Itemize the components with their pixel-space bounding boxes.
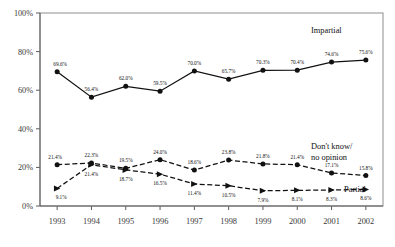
svg-text:18.6%: 18.6%: [188, 159, 202, 165]
svg-text:15.8%: 15.8%: [359, 165, 373, 171]
series-label-dontknow-line1: Don't know/: [311, 142, 353, 151]
series-label-impartial: Impartial: [311, 26, 342, 35]
svg-text:18.7%: 18.7%: [119, 176, 133, 182]
svg-text:70.0%: 70.0%: [188, 60, 202, 66]
svg-text:100%: 100%: [14, 9, 33, 18]
svg-text:11.4%: 11.4%: [188, 190, 202, 196]
svg-text:70.4%: 70.4%: [290, 59, 304, 65]
svg-text:2001: 2001: [323, 217, 340, 226]
svg-text:40%: 40%: [18, 125, 33, 134]
line-chart: 0%20%40%60%80%100% 199319941995199619971…: [0, 0, 395, 247]
svg-text:9.1%: 9.1%: [56, 194, 68, 200]
svg-text:70.3%: 70.3%: [256, 59, 270, 65]
svg-text:16.5%: 16.5%: [153, 180, 167, 186]
series-label-dontknow-line2: no opinion: [311, 153, 348, 162]
svg-text:10.5%: 10.5%: [222, 192, 236, 198]
series-label-partial: Partial: [344, 185, 367, 194]
svg-text:2002: 2002: [357, 217, 374, 226]
svg-text:0%: 0%: [22, 202, 33, 211]
svg-text:60%: 60%: [18, 86, 33, 95]
svg-text:1993: 1993: [49, 217, 66, 226]
svg-text:8.3%: 8.3%: [326, 196, 338, 202]
svg-text:8.1%: 8.1%: [292, 196, 304, 202]
svg-text:1998: 1998: [220, 217, 237, 226]
svg-text:21.4%: 21.4%: [290, 154, 304, 160]
svg-text:17.1%: 17.1%: [325, 162, 339, 168]
svg-text:1994: 1994: [83, 217, 101, 226]
svg-text:1995: 1995: [117, 217, 134, 226]
svg-text:59.5%: 59.5%: [153, 80, 167, 86]
svg-text:21.4%: 21.4%: [48, 154, 62, 160]
svg-text:20%: 20%: [18, 163, 33, 172]
svg-text:24.0%: 24.0%: [153, 149, 167, 155]
svg-text:80%: 80%: [18, 48, 33, 57]
svg-text:8.6%: 8.6%: [360, 195, 372, 201]
svg-text:65.7%: 65.7%: [222, 68, 236, 74]
svg-text:56.4%: 56.4%: [85, 86, 99, 92]
chart-container: 0%20%40%60%80%100% 199319941995199619971…: [0, 0, 395, 247]
svg-text:19.5%: 19.5%: [119, 157, 133, 163]
svg-text:21.4%: 21.4%: [85, 171, 99, 177]
svg-text:7.9%: 7.9%: [257, 197, 269, 203]
svg-text:62.0%: 62.0%: [119, 75, 133, 81]
svg-text:75.6%: 75.6%: [359, 49, 373, 55]
svg-text:21.8%: 21.8%: [256, 153, 270, 159]
svg-text:1997: 1997: [186, 217, 203, 226]
svg-text:23.8%: 23.8%: [222, 149, 236, 155]
svg-text:1996: 1996: [152, 217, 169, 226]
chart-background: [0, 0, 395, 247]
svg-text:2000: 2000: [289, 217, 306, 226]
svg-text:69.6%: 69.6%: [53, 61, 67, 67]
svg-text:1999: 1999: [255, 217, 272, 226]
svg-text:74.6%: 74.6%: [325, 51, 339, 57]
svg-text:22.3%: 22.3%: [85, 152, 99, 158]
